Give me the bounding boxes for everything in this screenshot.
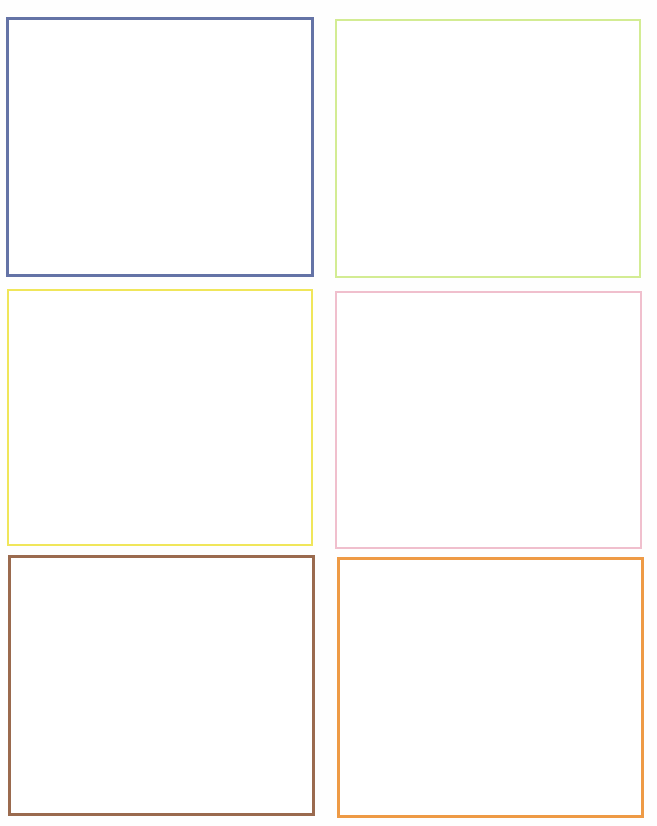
frame-green-top-right — [335, 19, 641, 278]
frame-orange-bottom-right — [337, 557, 644, 818]
frame-blue-top-left — [6, 17, 314, 277]
frame-brown-bottom-left — [8, 555, 315, 816]
page — [0, 0, 657, 826]
frame-pink-middle-right — [335, 291, 642, 549]
frame-yellow-middle-left — [7, 289, 313, 546]
